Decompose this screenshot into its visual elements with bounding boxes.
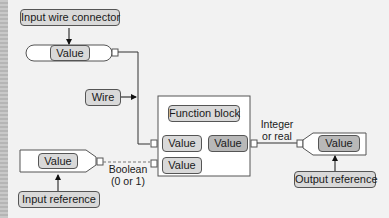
connector-port (112, 49, 118, 56)
diagram-canvas: Input wire connector Value Wire Function… (0, 0, 389, 218)
fb-output-value: Value (208, 135, 248, 152)
fb-input-port-2 (151, 160, 157, 167)
integer-annotation-line1: Integer (258, 118, 296, 130)
input-reference-label: Input reference (18, 191, 100, 208)
integer-annotation-line2: or real (258, 130, 296, 142)
function-block-title: Function block (168, 105, 240, 122)
output-reference-label: Output reference (294, 171, 376, 188)
fb-output-port (251, 140, 257, 147)
boolean-annotation-line2: (0 or 1) (108, 175, 148, 187)
wire-line (118, 52, 150, 144)
output-ref-port (297, 140, 303, 147)
input-wire-connector-label: Input wire connector (20, 9, 120, 26)
fb-input-value-2: Value (162, 157, 202, 174)
fb-input-port-1 (151, 140, 157, 147)
boolean-annotation: Boolean (0 or 1) (108, 163, 148, 187)
fb-input-value-1: Value (162, 135, 202, 152)
integer-annotation: Integer or real (258, 118, 296, 142)
input-reference-value: Value (38, 153, 78, 169)
boolean-annotation-line1: Boolean (108, 163, 148, 175)
output-reference-value: Value (318, 135, 360, 152)
input-ref-port (97, 158, 103, 165)
input-wire-connector-value: Value (50, 45, 90, 61)
wire-label: Wire (85, 89, 121, 106)
